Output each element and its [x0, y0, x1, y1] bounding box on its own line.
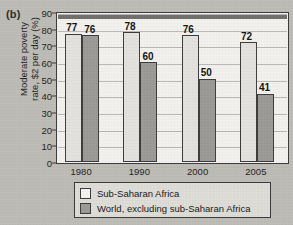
y-axis-tick-label: 40 — [41, 91, 52, 102]
legend-item-world-excluding-sub-saharan-africa: World, excluding sub-Saharan Africa — [80, 201, 265, 216]
y-axis-tick-label: 90 — [41, 8, 52, 19]
bar-value-label: 41 — [259, 82, 270, 93]
legend-item-sub-saharan-africa: Sub-Saharan Africa — [80, 186, 265, 201]
y-axis-tick-label: 80 — [41, 24, 52, 35]
y-axis-tick-label: 20 — [41, 124, 52, 135]
bar — [199, 79, 216, 162]
x-axis-tick-label: 1990 — [129, 166, 150, 177]
legend-item-label: Sub-Saharan Africa — [97, 188, 179, 199]
bar — [240, 42, 257, 162]
bar — [65, 34, 82, 162]
y-axis-tick-label: 10 — [41, 141, 52, 152]
bar — [82, 35, 99, 162]
bar-value-label: 76 — [84, 24, 95, 35]
x-axis-ticks: 1980199020002005 — [56, 166, 289, 180]
y-axis-ticks: 0102030405060708090 — [26, 12, 52, 164]
bar-value-label: 78 — [124, 21, 135, 32]
y-axis-tick-label: 70 — [41, 41, 52, 52]
chart-legend: Sub-Saharan Africa World, excluding sub-… — [74, 182, 271, 218]
legend-swatch-icon — [80, 188, 91, 199]
bar-value-label: 60 — [142, 51, 153, 62]
plot-area: 7776786076507241 — [56, 12, 289, 164]
bar-value-label: 76 — [183, 24, 194, 35]
legend-swatch-icon — [80, 203, 91, 214]
y-axis-tick-label: 30 — [41, 108, 52, 119]
bar-value-label: 50 — [201, 67, 212, 78]
x-axis-tick-label: 1980 — [71, 166, 92, 177]
bar-series-container: 7776786076507241 — [57, 13, 288, 163]
bar — [123, 32, 140, 162]
x-axis-tick-label: 2005 — [245, 166, 266, 177]
bar — [182, 35, 199, 162]
x-axis-tick-label: 2000 — [187, 166, 208, 177]
figure-panel-b: (b) Moderate poverty rate, $2 per day (%… — [0, 0, 293, 225]
bar-value-label: 77 — [66, 22, 77, 33]
bar — [140, 62, 157, 162]
plot-frame: 7776786076507241 — [56, 12, 289, 164]
y-axis-tick-label: 60 — [41, 58, 52, 69]
y-axis-tick-label: 50 — [41, 74, 52, 85]
bar — [257, 94, 274, 162]
bar-value-label: 72 — [241, 31, 252, 42]
legend-item-label: World, excluding sub-Saharan Africa — [97, 203, 251, 214]
